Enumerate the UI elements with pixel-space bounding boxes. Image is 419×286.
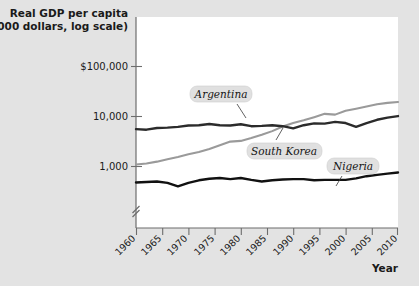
x-tick-label-2010: 2010 (375, 233, 400, 258)
x-tick-labels: 1960 1965 1970 1975 1980 1985 1990 1995 … (113, 233, 400, 258)
annotation-nigeria-text: Nigeria (332, 160, 373, 172)
x-tick-label-1990: 1990 (271, 233, 296, 258)
annotation-argentina-text: Argentina (194, 88, 248, 100)
x-tick-marks (137, 228, 398, 235)
x-tick-label-1995: 1995 (297, 233, 322, 258)
x-tick-label-1965: 1965 (139, 233, 164, 258)
y-axis-title-line2: (2000 dollars, log scale) (0, 20, 128, 32)
x-tick-label-1960: 1960 (113, 233, 138, 258)
x-tick-label-1970: 1970 (165, 233, 190, 258)
gdp-per-capita-line-chart: Real GDP per capita (2000 dollars, log s… (0, 0, 419, 286)
y-tick-label-1000: 1,000 (99, 161, 128, 172)
x-tick-label-1985: 1985 (244, 233, 269, 258)
plot-area-background (136, 17, 398, 228)
x-tick-label-1975: 1975 (192, 233, 217, 258)
x-tick-label-2005: 2005 (349, 233, 374, 258)
x-tick-label-1980: 1980 (218, 233, 243, 258)
y-tick-label-100000: $100,000 (80, 61, 128, 72)
x-tick-label-2000: 2000 (323, 233, 348, 258)
x-axis-title: Year (371, 262, 399, 274)
chart-figure: Real GDP per capita (2000 dollars, log s… (0, 0, 419, 286)
y-axis-title-line1: Real GDP per capita (10, 7, 128, 19)
annotation-south-korea-text: South Korea (251, 145, 317, 157)
y-tick-label-10000: 10,000 (93, 111, 128, 122)
